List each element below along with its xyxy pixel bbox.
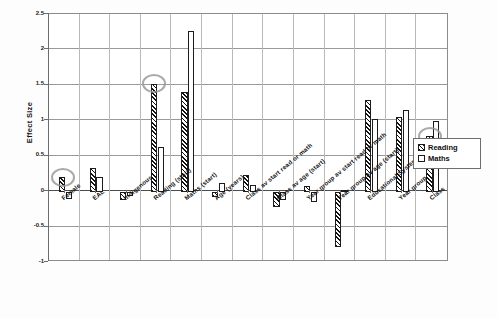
x-tick-label: Indigenous [122,174,153,202]
legend-item-reading[interactable]: Reading [418,142,476,153]
x-tick-label: Year group [397,174,428,201]
legend-swatch-reading-icon [418,144,425,151]
x-tick-label: Age (years) [213,173,245,201]
chart-figure: 2.521.510.50-0.5-1 Effect Size FemaleEAL… [0,0,497,318]
legend-label-maths: Maths [428,154,450,163]
chart-legend[interactable]: Reading Maths [413,138,481,169]
legend-label-reading: Reading [428,143,458,152]
x-tick-label: EAL [91,188,105,202]
x-tick-label: Maths (start) [183,171,218,202]
legend-swatch-maths-icon [418,155,425,162]
highlight-female-reading [51,168,75,187]
legend-item-maths[interactable]: Maths [418,153,476,164]
x-tick-label: Class [428,185,446,202]
